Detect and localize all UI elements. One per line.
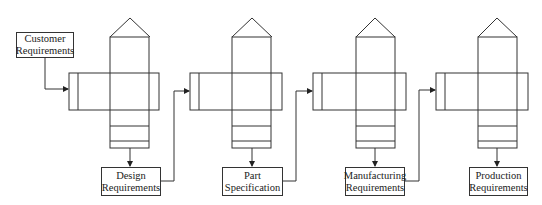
label-line: Design <box>116 170 146 182</box>
label-line: Specification <box>225 182 280 194</box>
label-line: Manufacturing <box>344 170 406 182</box>
hoq-matrix-4 <box>436 18 528 148</box>
label-line: Production <box>475 170 521 182</box>
label-line: Part <box>244 170 261 182</box>
label-line: Requirements <box>102 182 160 194</box>
hoq-matrix-3 <box>313 18 406 148</box>
arrow-customer-to-stage1 <box>45 57 68 89</box>
manufacturing-requirements-box: Manufacturing Requirements <box>345 167 405 196</box>
design-requirements-box: Design Requirements <box>101 167 161 196</box>
customer-requirements-box: Customer Requirements <box>16 32 74 58</box>
arrow-part-to-stage3 <box>282 91 312 181</box>
label-line: Requirements <box>346 182 404 194</box>
arrow-design-to-stage2 <box>160 91 189 181</box>
production-requirements-box: Production Requirements <box>469 167 528 196</box>
hoq-matrix-1 <box>69 18 159 148</box>
arrow-mfg-to-stage4 <box>404 90 435 181</box>
part-specification-box: Part Specification <box>222 167 283 196</box>
label-line: Requirements <box>16 45 74 57</box>
label-line: Requirements <box>469 182 527 194</box>
label-line: Customer <box>25 33 66 45</box>
hoq-matrix-2 <box>190 18 282 148</box>
